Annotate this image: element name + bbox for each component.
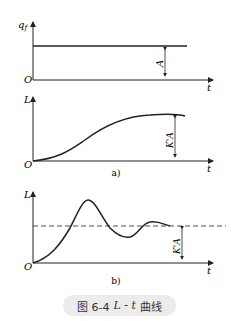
x-axis-label: t	[207, 265, 212, 276]
sub-caption: a)	[112, 168, 121, 178]
sub-caption: b)	[111, 276, 120, 286]
panel-top: qf O t A	[18, 19, 213, 93]
caption-formula: L - t	[114, 299, 136, 312]
panel-b: L O t K'A b)	[23, 189, 226, 286]
amplitude-label: A	[154, 60, 165, 68]
caption-prefix: 图 6-4	[77, 298, 109, 314]
origin-label: O	[24, 159, 32, 170]
y-axis-label: L	[23, 189, 31, 200]
figure-canvas: qf O t A L O t K'A a) L O t K'A b)	[0, 0, 231, 321]
origin-label: O	[24, 74, 32, 85]
caption-suffix: 曲线	[140, 298, 162, 314]
amplitude-label: K'A	[165, 132, 175, 149]
underdamped-response-curve	[33, 200, 170, 263]
x-axis-label: t	[207, 163, 212, 174]
y-axis-label: qf	[18, 19, 28, 32]
figure-caption: 图 6-4 L - t 曲线	[63, 295, 176, 316]
x-axis-label: t	[207, 82, 212, 93]
origin-label: O	[24, 261, 32, 272]
y-axis-label: L	[23, 94, 31, 105]
overdamped-response-curve	[33, 114, 185, 161]
panel-a: L O t K'A a)	[23, 94, 213, 178]
amplitude-label: K'A	[172, 238, 182, 255]
